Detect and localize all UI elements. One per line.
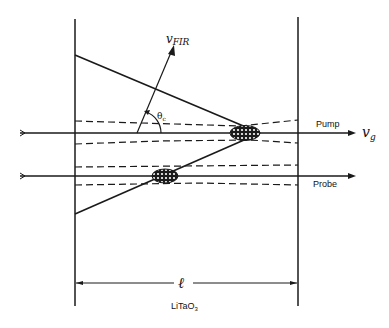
pump-output-arrowhead-icon [348, 130, 356, 136]
pump-beam-envelope-upper [75, 120, 298, 126]
probe-label: Probe [313, 179, 337, 189]
pump-beam-envelope-lower [75, 140, 298, 144]
probe-beam-envelope-lower [75, 183, 298, 185]
probe-output-arrowhead-icon [348, 173, 356, 179]
length-left-arrowhead-icon [76, 281, 83, 285]
length-label: ℓ [178, 274, 184, 292]
v-fir-label: vFIR [166, 32, 190, 47]
pump-label: Pump [316, 119, 340, 129]
v-g-label: vg [362, 124, 376, 142]
crystal-material-label: LiTaO3 [171, 301, 199, 312]
length-right-arrowhead-icon [290, 281, 297, 285]
pump-pulse-hatched [230, 126, 260, 141]
probe-pulse-hatched [152, 169, 178, 183]
theta-c-label: θc [157, 111, 166, 122]
lithium-tantalate-crystal-diagram: vFIR θc Pump Probe vg ℓ LiTaO3 [0, 0, 389, 328]
v-fir-vector [137, 50, 172, 133]
